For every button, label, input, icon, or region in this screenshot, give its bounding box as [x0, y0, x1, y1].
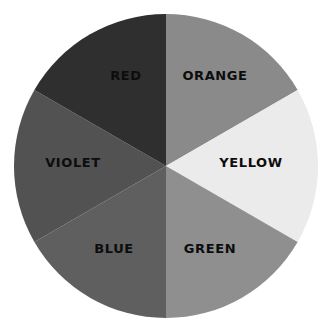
color-wheel-diagram: ORANGEYELLOWGREENBLUEVIOLETRED	[0, 0, 320, 326]
label-orange: ORANGE	[182, 68, 247, 83]
label-violet: VIOLET	[45, 155, 101, 170]
label-red: RED	[110, 68, 141, 83]
color-wheel: ORANGEYELLOWGREENBLUEVIOLETRED	[0, 0, 320, 326]
label-green: GREEN	[184, 241, 236, 256]
label-blue: BLUE	[94, 241, 134, 256]
label-yellow: YELLOW	[218, 155, 282, 170]
